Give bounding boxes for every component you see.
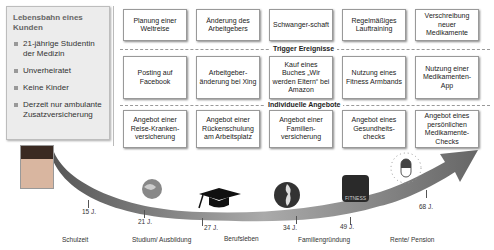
trigger-box: Posting auf Facebook xyxy=(123,56,187,99)
age-label: 34 J. xyxy=(283,224,297,231)
pill-clock-icon xyxy=(388,150,424,186)
fitness-app-icon: FITNESS xyxy=(342,175,369,202)
age-label: 27 J. xyxy=(204,224,218,231)
customer-profile-panel: Lebensbahn eines Kunden 21-jährige Stude… xyxy=(6,6,110,140)
life-event-box: Regelmäßiges Lauftraining xyxy=(342,9,406,41)
age-label: 68 J. xyxy=(419,203,433,210)
divider xyxy=(113,6,114,146)
profile-item: Derzeit nur ambulante Zusatzversicherung xyxy=(13,100,103,120)
life-event-box: Verschreibung neuer Medikamente xyxy=(415,9,479,41)
life-event-box: Planung einer Weltreise xyxy=(123,9,187,41)
age-tick xyxy=(88,200,89,208)
life-event-box: Änderung des Arbeitgebers xyxy=(196,9,260,41)
profile-list: 21-jährige Studentin der Medizin Unverhe… xyxy=(13,39,103,120)
globe-icon xyxy=(138,177,166,201)
profile-item: Unverheiratet xyxy=(13,66,103,76)
age-label: 21 J. xyxy=(138,218,152,225)
profile-title: Lebensbahn eines Kunden xyxy=(13,13,103,33)
graduation-cap-icon xyxy=(195,186,243,214)
age-tick xyxy=(426,190,427,198)
profile-item: 21-jährige Studentin der Medizin xyxy=(13,39,103,59)
trigger-box: Nutzung eines Fitness Armbands xyxy=(342,56,406,99)
age-tick xyxy=(202,218,203,226)
phase-label: Berufsleben xyxy=(224,235,259,242)
phase-label: Rente/ Pension xyxy=(390,236,434,243)
trigger-box: Nutzung einer Medikamenten-App xyxy=(415,56,479,99)
trigger-box: Arbeitgeber-änderung bei Xing xyxy=(196,56,260,99)
age-tick xyxy=(144,210,145,218)
age-label: 15 J. xyxy=(82,208,96,215)
profile-item: Keine Kinder xyxy=(13,83,103,93)
trigger-section-label: Trigger Ereignisse xyxy=(270,45,337,53)
phase-label: Schulzeit xyxy=(62,236,88,243)
portrait-photo xyxy=(20,145,54,189)
age-tick xyxy=(296,216,297,224)
trigger-box: Kauf eines Buches „Wir werden Eltern“ be… xyxy=(269,56,333,99)
age-label: 49 J. xyxy=(340,223,354,230)
life-event-box: Schwanger-schaft xyxy=(269,9,333,41)
phase-label: Familiengründung xyxy=(298,236,350,243)
offers-section-label: Individuelle Angebote xyxy=(265,101,343,109)
phase-label: Studium/ Ausbildung xyxy=(132,236,191,243)
pregnancy-icon xyxy=(272,180,302,210)
